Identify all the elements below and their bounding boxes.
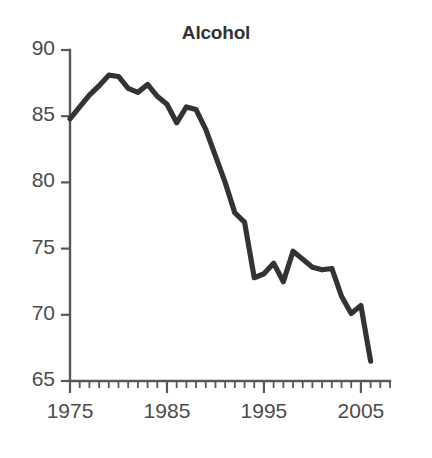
x-tick-label: 1995 bbox=[224, 399, 304, 423]
y-tick-label: 75 bbox=[13, 235, 55, 259]
x-tick-label: 1975 bbox=[30, 399, 110, 423]
y-tick-label: 65 bbox=[13, 367, 55, 391]
data-series-line bbox=[70, 75, 371, 361]
axes-group bbox=[70, 50, 390, 381]
x-tick-label: 1985 bbox=[127, 399, 207, 423]
plot-area bbox=[0, 0, 432, 458]
y-tick-label: 90 bbox=[13, 36, 55, 60]
y-tick-label: 70 bbox=[13, 301, 55, 325]
y-tick-label: 85 bbox=[13, 102, 55, 126]
y-tick-label: 80 bbox=[13, 168, 55, 192]
y-tick-marks bbox=[61, 50, 70, 381]
x-tick-marks bbox=[70, 381, 390, 393]
x-tick-label: 2005 bbox=[321, 399, 401, 423]
chart-figure: Alcohol 908580757065 1975198519952005 bbox=[0, 0, 432, 458]
